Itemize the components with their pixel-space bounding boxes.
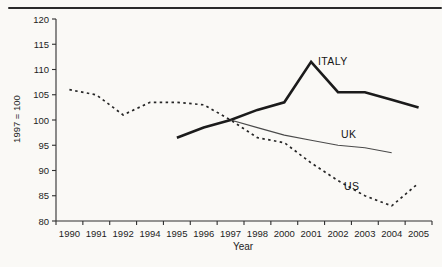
y-tick-label: 85 [38,190,49,201]
y-tick-label: 90 [38,165,49,176]
x-tick-label: 1995 [166,228,187,239]
series-line-uk [231,120,392,153]
x-tick-label: 1990 [59,228,80,239]
line-chart: 8085909510010511011512019901991199219941… [0,0,442,267]
x-tick-labels: 1990199119921994199519961997199820002001… [59,228,429,239]
axes [52,19,432,225]
series-label-italy: ITALY [318,55,348,67]
series-line-italy [177,62,419,138]
y-tick-label: 120 [33,14,49,25]
x-tick-label: 1991 [86,228,107,239]
series-label-uk: UK [341,128,356,140]
x-axis-title: Year [221,241,265,252]
y-axis-title: 1997 = 100 [11,95,23,143]
y-tick-label: 105 [33,89,49,100]
x-tick-label: 1996 [193,228,214,239]
y-tick-label: 95 [38,140,49,151]
x-tick-label: 1994 [139,228,160,239]
figure-index-chart: 8085909510010511011512019901991199219941… [0,0,442,267]
x-tick-label: 1997 [220,228,241,239]
x-tick-label: 2004 [381,228,402,239]
series-label-us: US [344,180,359,192]
chart-canvas: 8085909510010511011512019901991199219941… [0,0,442,267]
y-tick-label: 80 [38,216,49,227]
x-tick-label: 1998 [247,228,268,239]
x-tick-label: 2005 [408,228,429,239]
y-tick-labels: 80859095100105110115120 [33,14,49,227]
x-tick-label: 1992 [113,228,134,239]
y-tick-label: 100 [33,115,49,126]
x-tick-label: 2001 [301,228,322,239]
x-tick-label: 2000 [274,228,295,239]
y-tick-label: 110 [34,64,49,75]
x-tick-label: 2003 [354,228,375,239]
y-tick-label: 115 [34,39,49,50]
x-tick-label: 2002 [327,228,348,239]
